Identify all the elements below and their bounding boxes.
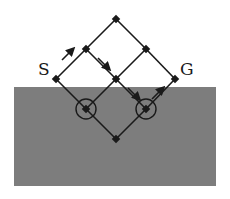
lattice-diagram [0, 0, 230, 199]
start-label: S [38, 59, 50, 79]
goal-label: G [180, 59, 194, 79]
